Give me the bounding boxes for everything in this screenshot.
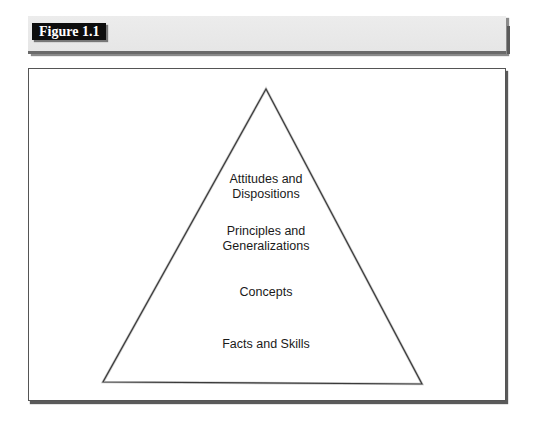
figure-label: Figure 1.1	[32, 23, 106, 40]
level-attitudes-dispositions: Attitudes and Dispositions	[166, 172, 366, 202]
level-line-1: Attitudes and	[166, 172, 366, 187]
level-concepts: Concepts	[166, 285, 366, 300]
level-line-2: Generalizations	[166, 239, 366, 254]
level-line-2: Dispositions	[166, 187, 366, 202]
level-principles-generalizations: Principles and Generalizations	[166, 224, 366, 254]
level-facts-skills: Facts and Skills	[166, 337, 366, 352]
level-line-1: Concepts	[166, 285, 366, 300]
figure-header-bar: Figure 1.1	[28, 16, 506, 54]
level-line-1: Facts and Skills	[166, 337, 366, 352]
level-line-1: Principles and	[166, 224, 366, 239]
